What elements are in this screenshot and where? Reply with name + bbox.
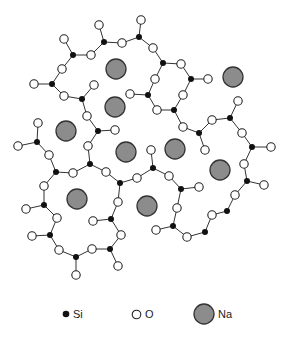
legend-item-na: Na <box>193 300 232 328</box>
oxygen-atom <box>95 21 103 29</box>
oxygen-atom <box>204 75 212 83</box>
oxygen-atom <box>149 44 157 52</box>
silicon-atom <box>196 130 202 136</box>
silicon-atom <box>41 202 47 208</box>
oxygen-atom <box>238 129 246 137</box>
silicon-atom <box>117 180 123 186</box>
oxygen-atom <box>87 51 95 59</box>
legend-label-si: Si <box>73 308 83 320</box>
oxygen-atom <box>114 262 122 270</box>
oxygen-atom <box>60 35 68 43</box>
oxygen-atom <box>83 112 91 120</box>
silicon-atom <box>249 144 255 150</box>
silicon-atom <box>87 161 93 167</box>
oxygen-atom <box>14 142 22 150</box>
oxygen-atom <box>117 231 125 239</box>
silicon-atom <box>227 115 233 121</box>
oxygen-atom <box>90 81 98 89</box>
silicon-atom <box>136 34 142 40</box>
silicon-atoms <box>34 34 255 260</box>
sodium-ion <box>105 97 125 117</box>
legend-label-o: O <box>145 308 154 320</box>
oxygen-atom <box>34 119 42 127</box>
oxygen-atom <box>28 232 36 240</box>
oxygen-atom <box>208 116 216 124</box>
oxygen-atom <box>118 39 126 47</box>
silicon-atom <box>53 169 59 175</box>
oxygen-atom <box>88 245 96 253</box>
oxygen-atom <box>72 271 80 279</box>
o-circle-icon <box>131 309 142 320</box>
silicon-atom <box>79 96 85 102</box>
bond-lines <box>18 20 271 275</box>
oxygen-atom <box>53 214 61 222</box>
oxygen-atom <box>177 60 185 68</box>
silicon-atom <box>178 186 184 192</box>
sodium-ions <box>56 59 243 216</box>
oxygen-atom <box>114 198 122 206</box>
oxygen-atom <box>137 16 145 24</box>
oxygen-atom <box>201 146 209 154</box>
silicon-atom <box>70 52 76 58</box>
silicon-atom <box>188 76 194 82</box>
silicon-atom <box>101 39 107 45</box>
silicon-atom <box>244 178 250 184</box>
oxygen-atom <box>40 182 48 190</box>
silicon-atom <box>95 128 101 134</box>
oxygen-atom <box>183 233 191 241</box>
oxygen-atom <box>151 75 159 83</box>
oxygen-atom <box>165 172 173 180</box>
oxygen-atom <box>111 126 119 134</box>
oxygen-atom <box>208 211 216 219</box>
oxygen-atom <box>69 169 77 177</box>
oxygen-atom <box>102 168 110 176</box>
sodium-ion <box>56 121 76 141</box>
sodium-ion <box>116 142 136 162</box>
oxygen-atom <box>260 181 268 189</box>
oxygen-atom <box>84 142 92 150</box>
legend-item-si: Si <box>62 300 83 328</box>
silicon-atom <box>224 208 230 214</box>
sodium-ion <box>67 189 87 209</box>
sodium-ion <box>106 59 126 79</box>
oxygen-atom <box>58 65 66 73</box>
oxygen-atom <box>195 183 203 191</box>
oxygen-atom <box>152 226 160 234</box>
na-circle-icon <box>193 303 215 325</box>
legend: Si O Na <box>0 300 289 330</box>
silicon-atom <box>47 232 53 238</box>
oxygen-atom <box>30 80 38 88</box>
oxygen-atom <box>22 205 30 213</box>
silicon-atom <box>145 92 151 98</box>
silicon-atom <box>107 246 113 252</box>
silicon-atom <box>171 107 177 113</box>
oxygen-atom <box>60 92 68 100</box>
legend-label-na: Na <box>218 308 232 320</box>
silicon-atom <box>34 139 40 145</box>
silicon-atom <box>170 223 176 229</box>
silicon-atom <box>160 60 166 66</box>
oxygen-atom <box>126 90 134 98</box>
sodium-ion <box>223 67 243 87</box>
oxygen-atom <box>153 106 161 114</box>
oxygen-atom <box>133 174 141 182</box>
si-dot-icon <box>62 310 70 318</box>
sodium-ion <box>165 139 185 159</box>
silicon-atom <box>73 254 79 260</box>
oxygen-atom <box>231 191 239 199</box>
oxygen-atom <box>179 123 187 131</box>
silicon-atom <box>108 216 114 222</box>
oxygen-atom <box>89 217 97 225</box>
silicon-atom <box>49 81 55 87</box>
oxygen-atom <box>55 246 63 254</box>
silicon-atom <box>150 165 156 171</box>
oxygen-atom <box>240 160 248 168</box>
oxygen-atom <box>234 97 242 105</box>
silicate-network-diagram <box>0 0 289 338</box>
legend-item-o: O <box>131 300 154 328</box>
sodium-ion <box>137 196 157 216</box>
oxygen-atom <box>179 91 187 99</box>
oxygen-atom <box>45 151 53 159</box>
sodium-ion <box>210 160 230 180</box>
oxygen-atom <box>267 143 275 151</box>
